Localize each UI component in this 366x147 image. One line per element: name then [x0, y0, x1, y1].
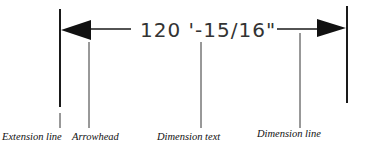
dimension-text: 120 '-15/16": [140, 18, 276, 42]
label-arrowhead: Arrowhead: [71, 131, 120, 142]
left-arrowhead-icon: [61, 20, 91, 40]
label-extension-line: Extension line: [1, 131, 62, 142]
right-arrowhead-icon: [317, 19, 346, 37]
label-dimension-text: Dimension text: [156, 131, 221, 142]
dimension-diagram: 120 '-15/16" Extension line Arrowhead Di…: [0, 0, 366, 147]
label-dimension-line: Dimension line: [256, 128, 321, 139]
